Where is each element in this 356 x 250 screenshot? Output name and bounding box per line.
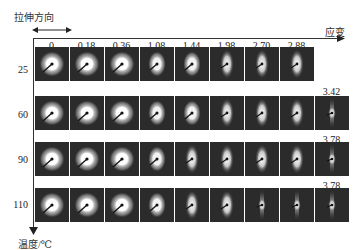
strain-axis-arrow-icon	[337, 35, 345, 42]
saxs-pattern-60-5	[210, 96, 244, 130]
saxs-pattern-110-8	[315, 188, 349, 222]
saxs-pattern-60-3	[140, 96, 174, 130]
saxs-pattern-110-5	[210, 188, 244, 222]
temperature-axis-arrow-icon	[29, 227, 38, 235]
saxs-pattern-60-4	[175, 96, 209, 130]
strain-axis-line	[33, 38, 339, 39]
saxs-pattern-90-1	[70, 142, 104, 176]
saxs-pattern-90-2	[105, 142, 139, 176]
saxs-pattern-90-0	[35, 142, 69, 176]
saxs-pattern-60-8	[315, 96, 349, 130]
saxs-pattern-90-8	[315, 142, 349, 176]
saxs-pattern-90-5	[210, 142, 244, 176]
saxs-pattern-90-6	[245, 142, 279, 176]
temperature-label-25: 25	[6, 64, 28, 75]
saxs-pattern-90-7	[280, 142, 314, 176]
saxs-pattern-90-3	[140, 142, 174, 176]
saxs-pattern-60-2	[105, 96, 139, 130]
saxs-pattern-25-4	[175, 47, 209, 81]
saxs-pattern-60-6	[245, 96, 279, 130]
saxs-pattern-60-7	[280, 96, 314, 130]
saxs-pattern-25-5	[210, 47, 244, 81]
saxs-pattern-110-3	[140, 188, 174, 222]
stretch-direction-label: 拉伸方向	[14, 9, 54, 24]
saxs-pattern-110-6	[245, 188, 279, 222]
saxs-pattern-60-0	[35, 96, 69, 130]
temperature-label-110: 110	[6, 199, 28, 210]
temperature-label-60: 60	[6, 109, 28, 120]
saxs-pattern-60-1	[70, 96, 104, 130]
temperature-axis-line	[33, 38, 34, 230]
saxs-pattern-25-7	[280, 47, 314, 81]
saxs-pattern-90-4	[175, 142, 209, 176]
saxs-pattern-25-2	[105, 47, 139, 81]
saxs-pattern-25-1	[70, 47, 104, 81]
saxs-pattern-110-0	[35, 188, 69, 222]
temperature-axis-label: 温度/℃	[18, 236, 52, 250]
saxs-pattern-110-1	[70, 188, 104, 222]
saxs-pattern-25-3	[140, 47, 174, 81]
double-arrow-icon	[32, 26, 72, 34]
saxs-pattern-110-7	[280, 188, 314, 222]
saxs-pattern-110-2	[105, 188, 139, 222]
temperature-label-90: 90	[6, 154, 28, 165]
saxs-pattern-110-4	[175, 188, 209, 222]
saxs-pattern-25-0	[35, 47, 69, 81]
saxs-pattern-25-6	[245, 47, 279, 81]
